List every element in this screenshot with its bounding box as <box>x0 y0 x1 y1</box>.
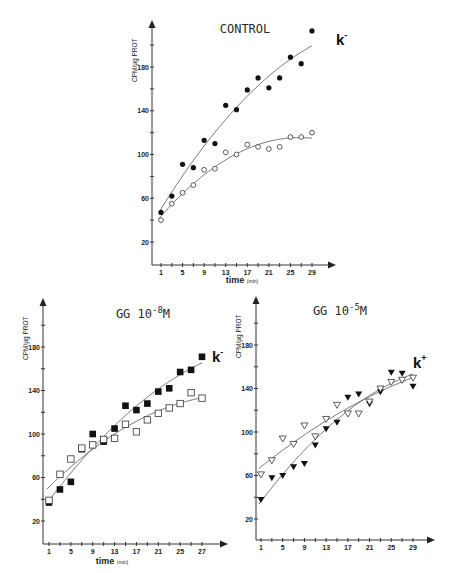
data-point-filled-circle <box>277 75 282 80</box>
y-axis-arrow-icon <box>253 296 260 304</box>
x-tick-label: 5 <box>181 269 185 276</box>
y-axis-label: CPM/µg PROT <box>131 38 139 82</box>
data-point-filled-circle <box>223 103 228 108</box>
data-point-filled-circle <box>191 165 196 170</box>
chart-title-unit: M <box>360 304 367 318</box>
data-point-filled-square <box>177 369 184 376</box>
data-point-filled-circle <box>255 75 260 80</box>
data-point-filled-circle <box>266 85 271 90</box>
data-point-open-triangle <box>279 436 286 442</box>
data-point-open-square <box>68 456 74 462</box>
data-point-filled-square <box>133 407 140 414</box>
data-point-open-triangle <box>355 411 362 417</box>
data-point-filled-square <box>122 402 129 409</box>
y-tick-label: 20 <box>245 516 253 523</box>
data-point-filled-square <box>166 385 173 392</box>
data-point-filled-square <box>155 388 162 395</box>
fit-curve <box>47 398 202 489</box>
data-point-open-circle <box>310 130 315 135</box>
figure: 20601001401801591317212529CPM/µg PROTtim… <box>0 0 453 573</box>
chart-title-exponent: -5 <box>349 302 360 312</box>
data-point-open-square <box>188 389 194 395</box>
x-tick-label: 5 <box>281 544 285 551</box>
data-point-filled-square <box>144 400 151 407</box>
curve-label: k- <box>212 347 223 365</box>
y-tick-label: 60 <box>245 472 253 479</box>
x-tick-label: 17 <box>344 544 352 551</box>
data-point-filled-triangle <box>268 475 275 481</box>
data-point-filled-triangle <box>312 443 319 449</box>
chart-gg-1e-5: 20601001401801591317212529CPM/µg PROTGG … <box>235 296 435 551</box>
data-point-open-triangle <box>377 386 384 392</box>
x-tick-label: 21 <box>366 544 374 551</box>
y-axis-label: CPM/µg PROT <box>235 314 243 358</box>
data-point-filled-circle <box>158 210 163 215</box>
data-point-open-square <box>177 400 183 406</box>
y-tick-label: 180 <box>241 342 253 349</box>
data-point-filled-square <box>89 431 96 438</box>
curve-label-superscript: - <box>344 30 347 40</box>
x-tick-label: 25 <box>387 544 395 551</box>
x-tick-label: 9 <box>302 544 306 551</box>
data-point-filled-square <box>68 479 75 486</box>
x-axis-arrow-icon <box>427 537 435 544</box>
data-point-filled-circle <box>245 87 250 92</box>
x-tick-label: 1 <box>47 548 51 555</box>
data-point-open-circle <box>213 166 218 171</box>
x-tick-label: 13 <box>111 548 119 555</box>
curve-label-superscript: + <box>421 353 426 363</box>
data-point-open-square <box>133 429 139 435</box>
data-point-open-square <box>199 395 205 401</box>
data-point-filled-triangle <box>290 464 297 470</box>
x-tick-label: 29 <box>409 544 417 551</box>
data-point-open-square <box>46 497 52 503</box>
x-tick-label: 9 <box>202 269 206 276</box>
data-point-filled-square <box>199 353 206 360</box>
data-point-filled-circle <box>180 162 185 167</box>
data-point-filled-triangle <box>334 420 341 426</box>
x-tick-label: 25 <box>287 269 295 276</box>
x-tick-label: 27 <box>198 548 206 555</box>
data-point-open-square <box>111 435 117 441</box>
y-tick-label: 100 <box>137 151 149 158</box>
data-point-open-circle <box>256 144 261 149</box>
fit-curve <box>159 46 312 213</box>
data-point-filled-circle <box>212 141 217 146</box>
data-point-filled-circle <box>234 107 239 112</box>
data-point-open-square <box>122 421 128 427</box>
data-point-open-square <box>100 436 106 442</box>
data-point-filled-square <box>111 425 118 432</box>
data-point-filled-triangle <box>301 461 308 467</box>
data-point-open-circle <box>245 142 250 147</box>
data-point-open-circle <box>234 152 239 157</box>
data-point-open-triangle <box>334 402 341 408</box>
x-tick-label: 5 <box>69 548 73 555</box>
x-tick-label: 13 <box>322 544 330 551</box>
data-point-open-triangle <box>268 458 275 464</box>
data-point-open-square <box>144 417 150 423</box>
x-tick-label: 1 <box>159 269 163 276</box>
data-point-open-square <box>90 442 96 448</box>
y-tick-label: 60 <box>141 195 149 202</box>
data-point-filled-circle <box>169 193 174 198</box>
chart-title: GG 10-8M <box>116 305 170 321</box>
chart-title-text: GG 10 <box>116 307 152 321</box>
chart-title-exponent: -8 <box>152 305 163 315</box>
data-point-filled-triangle <box>388 370 395 376</box>
x-tick-label: 21 <box>154 548 162 555</box>
y-tick-label: 100 <box>28 431 40 438</box>
data-point-filled-circle <box>288 55 293 60</box>
curve-label-superscript: - <box>220 347 223 357</box>
data-point-filled-triangle <box>344 395 351 401</box>
y-axis-label: CPM/µg PROT <box>22 316 30 360</box>
data-point-filled-triangle <box>279 473 286 479</box>
x-tick-label: 25 <box>176 548 184 555</box>
x-axis-label-text: time <box>96 556 117 566</box>
y-tick-label: 180 <box>28 344 40 351</box>
x-axis-arrow-icon <box>220 541 228 548</box>
chart-title-text: GG 10 <box>313 304 349 318</box>
x-tick-label: 29 <box>308 269 316 276</box>
data-point-open-circle <box>169 201 174 206</box>
x-axis-label: time (min) <box>96 556 129 566</box>
y-tick-label: 140 <box>137 107 149 114</box>
